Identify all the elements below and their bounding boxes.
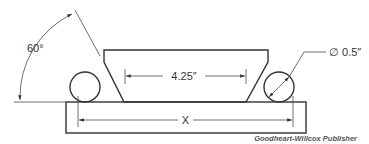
outer-distance-label: X [182, 114, 190, 126]
roller-diameter-label: ∅ 0.5″ [329, 46, 361, 58]
angle-arc [20, 14, 72, 100]
dovetail-measurement-diagram: 60° 4.25″ X ∅ 0.5″ Goodheart-Willcox Pub… [0, 0, 369, 144]
diameter-dim-line [269, 77, 289, 97]
left-roller [70, 72, 100, 102]
publisher-credit: Goodheart-Willcox Publisher [254, 134, 358, 143]
inner-distance-label: 4.25″ [171, 70, 196, 82]
angle-label: 60° [27, 42, 44, 54]
diameter-leader [289, 52, 326, 77]
angle-extension-line [75, 10, 100, 56]
